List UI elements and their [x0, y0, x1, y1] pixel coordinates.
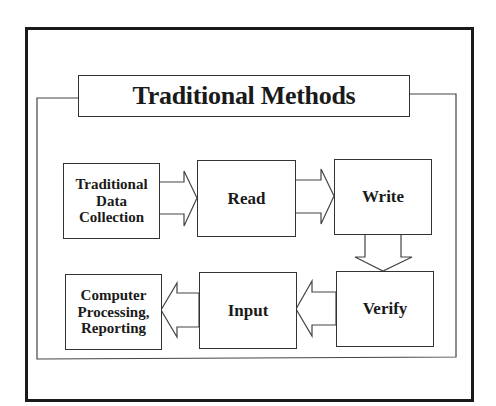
node-read: Read	[197, 160, 296, 237]
node-label: Write	[362, 187, 404, 206]
title-box: Traditional Methods	[78, 75, 410, 117]
arrow-input-to-processing	[161, 283, 199, 337]
node-traditional-data-collection: Traditional Data Collection	[63, 163, 160, 239]
node-label: Verify	[363, 299, 408, 318]
node-input: Input	[199, 272, 297, 349]
arrow-write-to-verify	[355, 234, 412, 271]
node-computer-processing: Computer Processing, Reporting	[65, 274, 162, 350]
arrow-read-to-write	[295, 169, 334, 224]
node-label: Read	[228, 189, 266, 208]
arrow-collection-to-read	[159, 171, 197, 226]
arrow-verify-to-input	[296, 281, 336, 336]
node-label: Traditional Data Collection	[75, 176, 147, 226]
node-write: Write	[334, 159, 432, 235]
node-verify: Verify	[336, 271, 434, 347]
diagram-title: Traditional Methods	[133, 81, 356, 111]
node-label: Input	[228, 301, 269, 320]
node-label: Computer Processing, Reporting	[78, 287, 150, 337]
